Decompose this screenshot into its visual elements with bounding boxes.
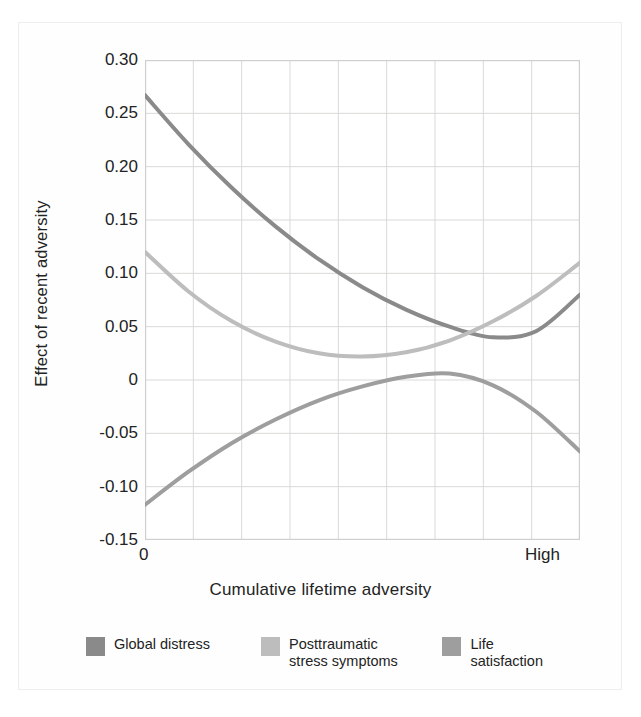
chart-root: Effect of recent adversity 0.300.250.200… [0,0,641,717]
y-axis-tick-label: 0.10 [82,263,138,283]
y-axis-tick-label: -0.15 [82,530,138,550]
y-axis-tick-label: 0 [82,370,138,390]
x-axis-left-tick-label: 0 [139,545,148,565]
legend-item[interactable]: Global distress [86,636,235,656]
legend-label: Posttraumatic stress symptoms [289,636,398,670]
series-curve-1 [145,252,580,357]
y-axis-tick-label: 0.05 [82,317,138,337]
legend-label: Global distress [114,636,210,653]
legend-swatch-icon [442,637,461,656]
x-axis-title: Cumulative lifetime adversity [0,580,641,600]
y-axis-tick-label: -0.10 [82,477,138,497]
plot-area [145,60,580,540]
legend-item[interactable]: Life satisfaction [442,636,556,670]
y-axis-tick-label: 0.25 [82,103,138,123]
y-axis-tick-label: 0.15 [82,210,138,230]
series-curve-2 [145,373,580,505]
x-axis-right-tick-label: High [525,545,560,565]
legend-swatch-icon [86,637,105,656]
series-curve-0 [145,95,580,337]
legend-label: Life satisfaction [470,636,556,670]
legend-item[interactable]: Posttraumatic stress symptoms [261,636,416,670]
y-axis-tick-labels: 0.300.250.200.150.100.050-0.05-0.10-0.15 [78,0,138,717]
y-axis-title: Effect of recent adversity [32,174,51,414]
chart-series-curves [145,60,580,540]
legend-swatch-icon [261,637,280,656]
y-axis-tick-label: 0.20 [82,157,138,177]
y-axis-tick-label: 0.30 [82,50,138,70]
chart-legend: Global distressPosttraumatic stress symp… [86,636,556,670]
y-axis-tick-label: -0.05 [82,423,138,443]
